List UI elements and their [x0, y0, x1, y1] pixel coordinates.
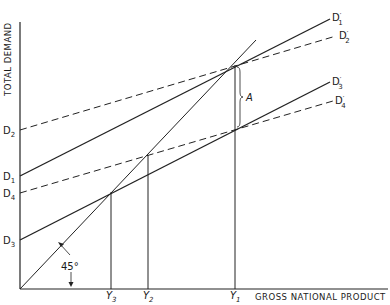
x-axis-title: GROSS NATIONAL PRODUCT	[255, 292, 386, 302]
line-d1	[20, 19, 330, 176]
svg-text:D3: D3	[3, 235, 15, 249]
label-d4: D4	[3, 188, 16, 202]
svg-text:Y1: Y1	[230, 290, 241, 304]
brace-a	[237, 67, 243, 127]
label-45-degree: 45°	[61, 261, 79, 272]
svg-text:D′2: D′2	[339, 30, 350, 45]
line-d3	[20, 82, 330, 240]
line-d4	[20, 101, 333, 193]
svg-text:D1: D1	[3, 171, 15, 185]
label-d4-prime: D′4	[335, 95, 346, 110]
angle-arrowhead-lower	[69, 282, 74, 287]
label-a: A	[245, 92, 253, 103]
label-y1: Y1	[230, 290, 241, 304]
svg-text:D2: D2	[3, 125, 15, 139]
svg-text:D′1: D′1	[332, 12, 343, 27]
svg-text:D′4: D′4	[335, 95, 346, 110]
line-d2	[20, 36, 336, 130]
line-45-degree	[20, 40, 256, 289]
label-d2-prime: D′2	[339, 30, 350, 45]
label-y2: Y2	[143, 290, 154, 304]
svg-text:D′3: D′3	[332, 76, 343, 91]
label-d2: D2	[3, 125, 15, 139]
svg-text:Y2: Y2	[143, 290, 154, 304]
label-d3-prime: D′3	[332, 76, 343, 91]
svg-text:D4: D4	[3, 188, 16, 202]
chart-canvas: A 45° TOTAL DEMAND GROSS NATIONAL PRODUC…	[0, 0, 390, 305]
label-y3: Y3	[106, 290, 117, 304]
label-d1-prime: D′1	[332, 12, 343, 27]
label-d1: D1	[3, 171, 15, 185]
y-axis-title: TOTAL DEMAND	[3, 22, 13, 97]
label-d3: D3	[3, 235, 15, 249]
svg-text:Y3: Y3	[106, 290, 117, 304]
angle-arrowhead-upper	[58, 242, 64, 247]
